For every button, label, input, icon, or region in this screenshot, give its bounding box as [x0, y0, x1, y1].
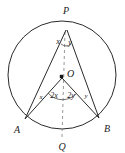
angle-label-o-2y: 2y [67, 91, 75, 100]
vertex-label-a: A [13, 124, 21, 135]
vertex-label-o: O [67, 68, 74, 79]
dashed-axis-line-pq [62, 32, 65, 137]
center-point-marker [60, 75, 63, 78]
vertex-label-b: B [104, 123, 110, 134]
angle-label-o-2x: 2x [50, 91, 58, 100]
chord-segment-pa [25, 30, 66, 119]
vertex-label-q: Q [58, 141, 66, 152]
geometry-figure: P O A B Q x y 2x 2y x y [0, 0, 125, 153]
angle-label-p-y: y [67, 38, 72, 47]
angle-label-p-x: x [55, 37, 60, 46]
vertex-label-p: P [62, 5, 69, 16]
angle-label-b-y: y [83, 92, 88, 100]
geometry-canvas: P O A B Q x y 2x 2y x y [0, 0, 125, 153]
